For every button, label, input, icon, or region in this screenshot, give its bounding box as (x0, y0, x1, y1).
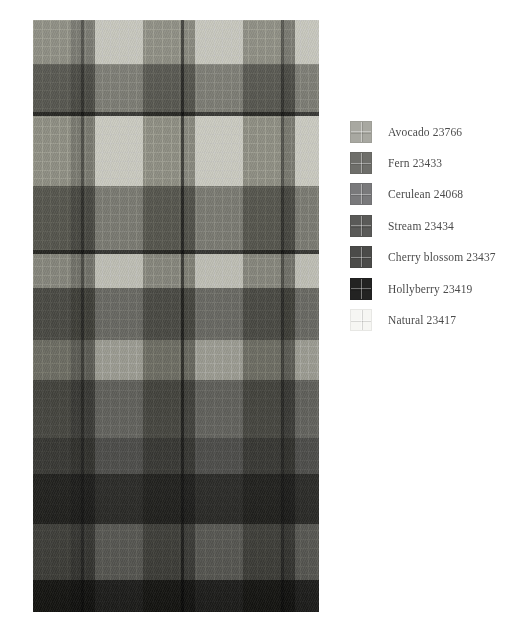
legend-item: Stream 23434 (350, 210, 520, 241)
weft-stripe (33, 64, 319, 112)
swatch-grid-light (351, 247, 371, 267)
legend-item: Natural 23417 (350, 304, 520, 335)
legend-item: Cerulean 24068 (350, 179, 520, 210)
legend: Avocado 23766 Fern 23433 Cerulean 24068 … (350, 116, 520, 336)
legend-item: Fern 23433 (350, 147, 520, 178)
cherry-blossom-swatch (350, 246, 372, 268)
legend-item: Cherry blossom 23437 (350, 242, 520, 273)
swatch-grid-light (351, 184, 371, 204)
swatch-grid-light (351, 122, 371, 142)
weft-stripe (33, 116, 319, 186)
weft-stripe (33, 186, 319, 250)
avocado-swatch (350, 121, 372, 143)
swatch-grid-light (351, 216, 371, 236)
legend-item-label: Hollyberry 23419 (388, 283, 472, 295)
swatch-grid-light (351, 153, 371, 173)
weft-yarn-layer (33, 20, 319, 612)
legend-item-label: Cherry blossom 23437 (388, 251, 496, 263)
weft-stripe (33, 524, 319, 580)
weft-stripe (33, 254, 319, 288)
weft-stripe (33, 20, 319, 64)
fabric-swatch-image (33, 20, 319, 612)
swatch-grid-light (351, 279, 371, 299)
legend-item: Hollyberry 23419 (350, 273, 520, 304)
natural-swatch (350, 309, 372, 331)
weft-stripe (33, 340, 319, 380)
legend-item: Avocado 23766 (350, 116, 520, 147)
weft-stripe (33, 288, 319, 340)
legend-item-label: Stream 23434 (388, 220, 454, 232)
legend-item-label: Natural 23417 (388, 314, 456, 326)
weft-stripe (33, 438, 319, 474)
stream-swatch (350, 215, 372, 237)
weft-stripe (33, 380, 319, 438)
legend-item-label: Fern 23433 (388, 157, 442, 169)
hollyberry-swatch (350, 278, 372, 300)
legend-item-label: Cerulean 24068 (388, 188, 463, 200)
legend-item-label: Avocado 23766 (388, 126, 462, 138)
fern-swatch (350, 152, 372, 174)
swatch-grid-light (351, 310, 371, 330)
cerulean-swatch (350, 183, 372, 205)
weft-stripe (33, 474, 319, 524)
weft-stripe (33, 580, 319, 612)
